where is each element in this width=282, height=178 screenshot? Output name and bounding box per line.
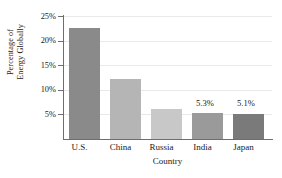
y-axis-title-line-2: Energy Globally (16, 4, 26, 100)
y-axis-title: Percentage of Energy Globally (6, 4, 26, 100)
y-tick-label-5: 5% (26, 110, 56, 119)
y-tick-label-10: 10% (26, 85, 56, 94)
y-axis-title-line-1: Percentage of (6, 4, 16, 100)
y-tick-mark (58, 90, 63, 91)
y-tick-mark (58, 114, 63, 115)
y-tick-mark (58, 41, 63, 42)
x-tick-label-japan: Japan (223, 142, 264, 152)
bar-value-japan: 5.1% (226, 98, 266, 108)
x-tick-label-russia: Russia (141, 142, 182, 152)
bar-chart: Percentage of Energy Globally 25% 20% 15… (0, 0, 282, 178)
x-tick-label-india: India (182, 142, 223, 152)
bar-us (69, 28, 100, 139)
x-tick-label-us: U.S. (59, 142, 100, 152)
plot-area (63, 16, 272, 139)
gridline (63, 16, 272, 17)
y-tick-label-20: 20% (26, 36, 56, 45)
y-tick-label-15: 15% (26, 61, 56, 70)
bar-value-india: 5.3% (185, 98, 225, 108)
bar-russia (151, 109, 182, 139)
bar-china (110, 79, 141, 139)
bar-japan (233, 114, 264, 139)
bar-india (192, 113, 223, 139)
y-tick-label-25: 25% (26, 12, 56, 21)
x-axis-title: Country (63, 156, 272, 166)
y-tick-mark (58, 16, 63, 17)
x-axis-line (63, 139, 273, 140)
y-axis-line (63, 15, 64, 140)
x-tick-label-china: China (100, 142, 141, 152)
y-tick-mark (58, 65, 63, 66)
